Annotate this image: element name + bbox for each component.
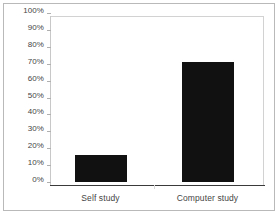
y-axis-tick-label: 60% (28, 75, 44, 83)
y-axis-tick-label: 70% (28, 58, 44, 66)
y-axis-tick-label: 100% (23, 7, 44, 15)
y-axis-tick-mark (47, 182, 51, 183)
x-axis-line (50, 185, 265, 186)
y-axis-tick-mark (47, 114, 51, 115)
y-axis-tick-mark (47, 148, 51, 149)
y-axis-tick-mark (47, 13, 51, 14)
x-axis-category-label: Computer study (154, 194, 261, 203)
x-axis-separator-tick (154, 185, 155, 189)
y-axis-tick-mark (47, 165, 51, 166)
y-axis-line (50, 16, 51, 186)
y-axis-tick-mark (47, 98, 51, 99)
y-axis-tick-mark (47, 30, 51, 31)
x-axis-category-label: Self study (47, 194, 154, 203)
y-axis-tick-label: 0% (32, 176, 44, 184)
y-axis-tick-label: 80% (28, 41, 44, 49)
y-axis-tick-label: 90% (28, 24, 44, 32)
y-axis-tick-label: 10% (28, 159, 44, 167)
bar (75, 155, 127, 182)
y-axis-tick-mark (47, 81, 51, 82)
y-axis-tick-label: 40% (28, 108, 44, 116)
y-axis-tick-label: 30% (28, 125, 44, 133)
y-axis-tick-mark (47, 64, 51, 65)
y-axis-tick-mark (47, 131, 51, 132)
y-axis-tick-label: 20% (28, 142, 44, 150)
bar (182, 62, 234, 182)
chart-frame: 0%10%20%30%40%50%60%70%80%90%100% Self s… (3, 3, 275, 211)
y-axis-tick-label: 50% (28, 92, 44, 100)
y-axis-tick-mark (47, 47, 51, 48)
